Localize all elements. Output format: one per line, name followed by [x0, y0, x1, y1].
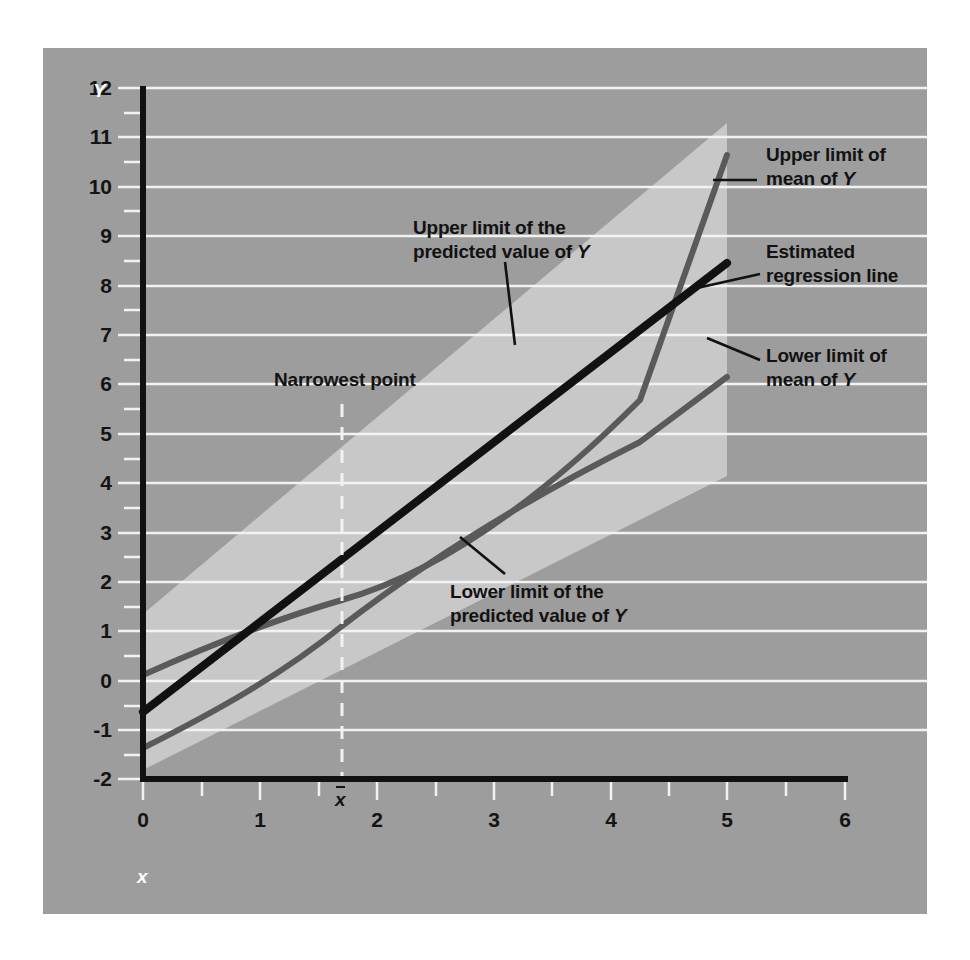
- x-mean-label: x: [335, 786, 346, 811]
- annotation-upper-limit-mean-line1: Upper limit of: [766, 143, 886, 167]
- annotation-upper-limit-mean-line2: mean of Y: [766, 167, 886, 191]
- annotation-narrowest-point: Narrowest point: [274, 368, 416, 392]
- annotation-estimated-regression-line: Estimated regression line: [766, 240, 898, 288]
- annotation-lower-limit-mean-italic-y: Y: [843, 369, 855, 390]
- y-tick-label-neg1: -1: [52, 718, 112, 742]
- x-axis-ticks: [143, 782, 845, 800]
- annotation-lower-limit-mean: Lower limit of mean of Y: [766, 344, 887, 392]
- x-tick-label-4: 4: [581, 808, 641, 832]
- annotation-lower-predicted-line2-text: predicted value of: [450, 605, 614, 626]
- annotation-upper-predicted-line1: Upper limit of the: [413, 216, 590, 240]
- annotation-upper-limit-mean-line2-text: mean of: [766, 168, 843, 189]
- y-tick-label-9: 9: [60, 224, 112, 248]
- annotation-upper-predicted-line2-text: predicted value of: [413, 241, 577, 262]
- x-tick-label-5: 5: [697, 808, 757, 832]
- y-axis-name: Y: [93, 80, 106, 102]
- y-tick-label-0: 0: [60, 669, 112, 693]
- annotation-estimated-line1: Estimated: [766, 240, 898, 264]
- annotation-lower-limit-predicted: Lower limit of the predicted value of Y: [450, 580, 627, 628]
- x-axis-name: x: [137, 866, 148, 888]
- y-tick-label-neg2: -2: [52, 767, 112, 791]
- x-tick-label-2: 2: [347, 808, 407, 832]
- x-tick-label-3: 3: [464, 808, 524, 832]
- annotation-upper-limit-mean: Upper limit of mean of Y: [766, 143, 886, 191]
- annotation-lower-limit-mean-line1: Lower limit of: [766, 344, 887, 368]
- y-tick-label-2: 2: [60, 570, 112, 594]
- y-tick-label-1: 1: [60, 619, 112, 643]
- x-tick-label-0: 0: [113, 808, 173, 832]
- y-tick-label-3: 3: [60, 521, 112, 545]
- figure-container: 12 11 10 9 8 7 6 5 4 3 2 1 0 -1 -2 0 1 2…: [0, 0, 970, 960]
- y-tick-label-7: 7: [60, 323, 112, 347]
- x-mean-overbar: [336, 786, 345, 788]
- annotation-upper-limit-mean-italic-y: Y: [843, 168, 855, 189]
- y-tick-label-10: 10: [60, 175, 112, 199]
- annotation-upper-predicted-italic-y: Y: [577, 241, 589, 262]
- annotation-lower-predicted-line2: predicted value of Y: [450, 604, 627, 628]
- y-tick-label-8: 8: [60, 274, 112, 298]
- x-mean-letter: x: [335, 789, 346, 810]
- annotation-upper-limit-predicted: Upper limit of the predicted value of Y: [413, 216, 590, 264]
- y-axis-major-ticks: [118, 88, 140, 779]
- y-tick-label-6: 6: [60, 372, 112, 396]
- annotation-upper-predicted-line2: predicted value of Y: [413, 240, 590, 264]
- x-tick-label-6: 6: [815, 808, 875, 832]
- y-tick-label-5: 5: [60, 422, 112, 446]
- annotation-lower-predicted-italic-y: Y: [614, 605, 626, 626]
- annotation-lower-predicted-line1: Lower limit of the: [450, 580, 627, 604]
- annotation-lower-limit-mean-line2-text: mean of: [766, 369, 843, 390]
- annotation-lower-limit-mean-line2: mean of Y: [766, 368, 887, 392]
- y-tick-label-11: 11: [60, 125, 112, 149]
- annotation-estimated-line2: regression line: [766, 264, 898, 288]
- y-tick-label-4: 4: [60, 471, 112, 495]
- x-tick-label-1: 1: [230, 808, 290, 832]
